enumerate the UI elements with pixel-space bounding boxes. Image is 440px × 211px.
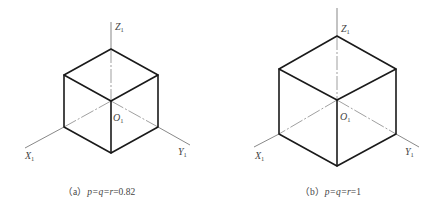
x-axis-b <box>254 134 279 147</box>
cube-inner-edges-b <box>279 69 396 100</box>
origin-label-a: O1 <box>113 112 123 124</box>
z-axis-label-b: Z1 <box>341 23 350 35</box>
cube-b: Z1 O1 X1 Y1 <box>254 8 419 166</box>
x-axis-label-a: X1 <box>24 150 34 162</box>
origin-label-b: O1 <box>340 111 350 123</box>
cube-a: Z1 O1 X1 Y1 <box>24 21 190 162</box>
x-axis-label-b: X1 <box>254 150 264 162</box>
caption-b-prefix: （b） <box>300 187 325 197</box>
z-axis-label-a: Z1 <box>115 21 124 33</box>
caption-b-formula: p=q=r <box>325 187 351 197</box>
x-axis-hidden-a <box>64 101 111 127</box>
x-axis-a <box>25 127 64 148</box>
isometric-cube-diagrams: Z1 O1 X1 Y1 Z1 O1 X1 Y1 <box>0 0 440 211</box>
caption-a: （a）p=q=r=0.82 <box>63 184 135 198</box>
y-axis-a <box>158 127 190 145</box>
y-axis-label-a: Y1 <box>178 146 187 158</box>
caption-b: （b）p=q=r=1 <box>300 184 361 198</box>
caption-a-prefix: （a） <box>63 187 87 197</box>
x-axis-hidden-b <box>279 100 337 134</box>
caption-a-value: =0.82 <box>113 187 135 197</box>
y-axis-label-b: Y1 <box>405 146 414 158</box>
caption-a-formula: p=q=r <box>87 187 113 197</box>
caption-b-value: =1 <box>351 187 361 197</box>
